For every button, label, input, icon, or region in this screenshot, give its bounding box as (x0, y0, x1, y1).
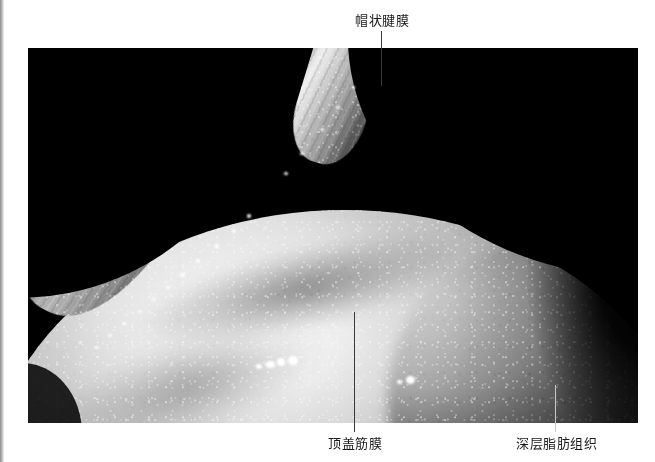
specular-highlight (166, 286, 170, 289)
specular-highlight (95, 346, 99, 349)
specular-highlight (214, 244, 219, 248)
specular-highlight (247, 214, 251, 218)
specular-highlight (397, 380, 402, 384)
specular-highlight (138, 310, 142, 313)
specular-highlight (196, 259, 200, 263)
specular-highlight (406, 376, 415, 384)
specular-highlight (336, 106, 340, 109)
page-gutter-edge (0, 0, 4, 462)
annotation-label-parietal-fascia: 顶盖筋膜 (328, 437, 382, 451)
specular-highlight (320, 128, 324, 131)
specular-highlight (108, 334, 112, 337)
specular-highlight (152, 298, 156, 301)
photo-mask-right (526, 198, 638, 423)
leader-line-deep-fat-tissue (555, 385, 556, 432)
specular-highlight (277, 358, 285, 366)
photo-content (28, 48, 638, 423)
leader-line-galea (381, 31, 382, 86)
annotation-label-galea: 帽状腱膜 (355, 14, 409, 28)
specular-highlight (180, 273, 185, 277)
anatomical-dissection-photograph (28, 48, 638, 423)
specular-highlight (122, 322, 126, 325)
figure-page: 帽状腱膜顶盖筋膜深层脂肪组织 (0, 0, 655, 462)
specular-highlight (256, 364, 262, 369)
specular-highlight (288, 356, 298, 365)
specular-highlight (266, 361, 275, 368)
specular-highlight (284, 172, 288, 175)
specular-highlight (232, 229, 236, 233)
annotation-label-deep-fat-tissue: 深层脂肪组织 (516, 437, 597, 451)
specular-highlight (300, 152, 304, 155)
specular-highlight (352, 86, 355, 89)
leader-line-parietal-fascia (354, 312, 355, 432)
